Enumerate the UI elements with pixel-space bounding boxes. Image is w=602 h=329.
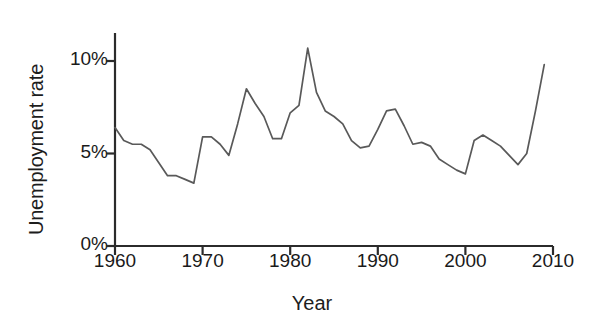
data-series-group bbox=[115, 48, 544, 183]
unemployment-rate-line bbox=[115, 48, 544, 183]
y-axis-ticks bbox=[106, 61, 115, 246]
axes bbox=[115, 33, 553, 246]
chart-figure: Unemployment rate 10% 5% 0% 1960 1970 19… bbox=[0, 0, 602, 329]
x-axis-ticks bbox=[115, 246, 553, 255]
plot-area bbox=[0, 0, 602, 329]
